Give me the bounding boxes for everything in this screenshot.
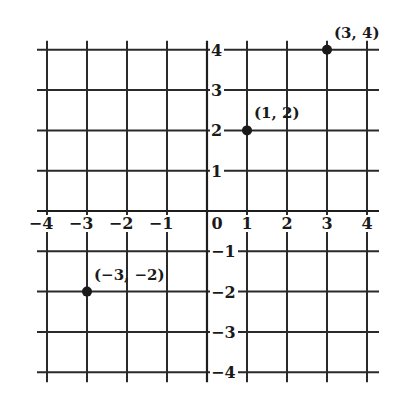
x-tick-label: −2: [109, 214, 134, 233]
y-tick-label: −4: [211, 363, 236, 382]
point-label: (−3, −2): [94, 266, 165, 284]
x-tick-label: −1: [149, 214, 174, 233]
y-tick-label: 4: [211, 41, 222, 60]
coordinate-plane: −4−3−2−101234−4−3−2−11234 (3, 4)(1, 2)(−…: [0, 0, 401, 402]
data-point: [242, 125, 252, 135]
x-tick-label: 0: [211, 214, 222, 233]
x-tick-label: 4: [361, 214, 372, 233]
y-tick-label: 1: [211, 162, 222, 181]
x-tick-label: 2: [281, 214, 292, 233]
y-tick-label: −1: [211, 242, 236, 261]
x-tick-label: 1: [241, 214, 252, 233]
data-point: [322, 45, 332, 55]
y-tick-label: −2: [211, 283, 236, 302]
x-tick-label: −3: [69, 214, 94, 233]
y-tick-label: 3: [211, 81, 222, 100]
y-tick-label: 2: [211, 121, 222, 140]
y-tick-label: −3: [211, 323, 236, 342]
point-label: (3, 4): [334, 24, 380, 42]
x-tick-label: −4: [29, 214, 54, 233]
x-tick-label: 3: [321, 214, 332, 233]
data-point: [82, 287, 92, 297]
point-label: (1, 2): [254, 104, 300, 122]
